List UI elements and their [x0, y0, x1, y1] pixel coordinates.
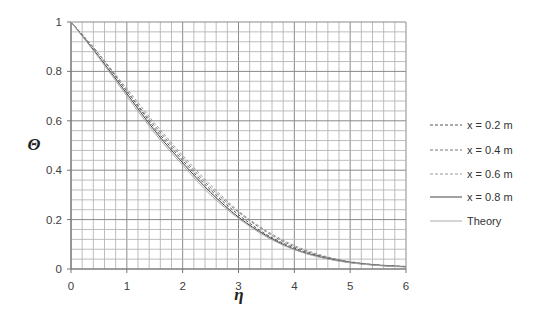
x-tick-label: 4: [291, 280, 298, 292]
y-tick-label: 0: [56, 263, 62, 275]
x-tick-label: 2: [179, 280, 185, 292]
x-tick-label: 5: [347, 280, 353, 292]
x-tick-label: 6: [403, 280, 409, 292]
y-tick-label: 1: [56, 16, 62, 28]
legend-label: Theory: [467, 215, 502, 227]
legend-label: x = 0.2 m: [467, 119, 513, 131]
y-tick-label: 0.8: [46, 65, 62, 77]
x-tick-label: 0: [68, 280, 74, 292]
y-tick-label: 0.2: [46, 214, 62, 226]
legend-label: x = 0.6 m: [467, 168, 513, 180]
x-tick-label: 1: [124, 280, 130, 292]
y-tick-label: 0.6: [46, 115, 62, 127]
legend-label: x = 0.4 m: [467, 144, 513, 156]
chart: 012345600.20.40.60.81 η Θ x = 0.2 mx = 0…: [0, 0, 538, 334]
y-tick-label: 0.4: [46, 164, 63, 176]
x-axis-title: η: [234, 285, 243, 304]
legend-label: x = 0.8 m: [467, 191, 513, 203]
legend: x = 0.2 mx = 0.4 mx = 0.6 mx = 0.8 mTheo…: [430, 119, 513, 227]
y-axis-title: Θ: [28, 135, 41, 154]
grid-lines: [71, 22, 406, 269]
